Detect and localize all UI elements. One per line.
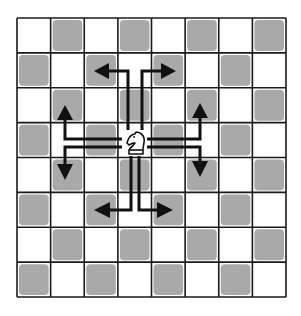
dark-square (154, 264, 184, 295)
knight-icon (125, 130, 147, 156)
light-square (219, 88, 253, 123)
dark-square (254, 229, 284, 260)
dark-square (120, 20, 150, 51)
dark-square (19, 194, 49, 225)
dark-square (53, 229, 83, 260)
light-square (219, 158, 253, 193)
dark-square (120, 160, 150, 191)
dark-square (254, 90, 284, 121)
dark-square (221, 125, 251, 156)
light-square (17, 227, 51, 262)
light-square (51, 262, 85, 297)
dark-square (19, 125, 49, 156)
dark-square (221, 194, 251, 225)
light-square (152, 88, 186, 123)
dark-square (53, 20, 83, 51)
light-square (152, 227, 186, 262)
dark-square (254, 20, 284, 51)
light-square (152, 158, 186, 193)
light-square (252, 53, 286, 88)
light-square (219, 18, 253, 53)
dark-square (86, 264, 116, 295)
light-square (219, 227, 253, 262)
light-square (252, 123, 286, 158)
dark-square (187, 20, 217, 51)
light-square (17, 158, 51, 193)
light-square (118, 262, 152, 297)
dark-square (221, 264, 251, 295)
light-square (252, 262, 286, 297)
dark-square (19, 55, 49, 86)
light-square (152, 18, 186, 53)
light-square (84, 88, 118, 123)
light-square (185, 192, 219, 227)
dark-square (221, 55, 251, 86)
dark-square (120, 229, 150, 260)
light-square (17, 88, 51, 123)
light-square (84, 18, 118, 53)
light-square (17, 18, 51, 53)
dark-square (19, 264, 49, 295)
light-square (84, 158, 118, 193)
light-square (51, 53, 85, 88)
light-square (84, 227, 118, 262)
light-square (185, 53, 219, 88)
dark-square (120, 90, 150, 121)
dark-square (187, 229, 217, 260)
light-square (51, 192, 85, 227)
light-square (252, 192, 286, 227)
chess-knight-moves-diagram (0, 0, 301, 316)
dark-square (254, 160, 284, 191)
light-square (185, 262, 219, 297)
